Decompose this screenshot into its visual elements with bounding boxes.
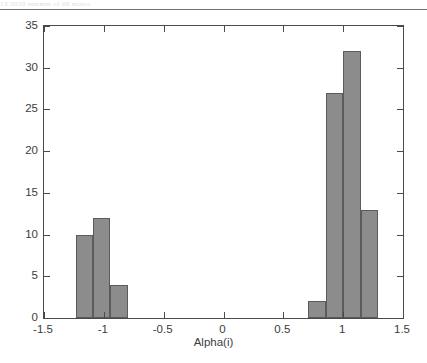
x-axis-tick (224, 312, 225, 318)
x-axis-tick (343, 312, 344, 318)
plot-area (43, 25, 404, 319)
x-axis-tick (403, 312, 404, 318)
y-axis-tick-label: 20 (10, 144, 38, 156)
y-axis-tick (44, 276, 50, 277)
y-axis-tick-right (397, 151, 403, 152)
y-axis-tick-right (397, 109, 403, 110)
y-axis-tick (44, 109, 50, 110)
y-axis-tick-right (397, 276, 403, 277)
bars-layer (44, 26, 403, 318)
x-axis-tick (283, 312, 284, 318)
y-axis-tick-label: 0 (10, 311, 38, 323)
histogram-bar (93, 218, 110, 318)
x-axis-tick-label: 0 (201, 323, 245, 335)
histogram-figure: 13 2020 mmmm of 08 minor 05101520253035-… (0, 0, 427, 363)
y-axis-tick-right (397, 68, 403, 69)
y-axis-tick-label: 15 (10, 186, 38, 198)
y-axis-tick-label: 5 (10, 269, 38, 281)
x-axis-tick-top (104, 26, 105, 32)
page-top-rule (0, 9, 427, 10)
histogram-bar (326, 93, 343, 318)
y-axis-tick (44, 318, 50, 319)
y-axis-tick (44, 193, 50, 194)
x-axis-title: Alpha(i) (0, 336, 427, 348)
x-axis-tick (104, 312, 105, 318)
histogram-bar (308, 301, 325, 318)
x-axis-tick-label: -1 (81, 323, 125, 335)
x-axis-tick-label: -1.5 (21, 323, 65, 335)
x-axis-tick-label: -0.5 (141, 323, 185, 335)
y-axis-tick-right (397, 193, 403, 194)
y-axis-tick-label: 30 (10, 61, 38, 73)
x-axis-tick-label: 1.5 (380, 323, 424, 335)
x-axis-tick-top (343, 26, 344, 32)
x-axis-tick-top (44, 26, 45, 32)
y-axis-tick (44, 235, 50, 236)
x-axis-tick (44, 312, 45, 318)
y-axis-tick-label: 10 (10, 228, 38, 240)
x-axis-tick-top (403, 26, 404, 32)
histogram-bar (110, 285, 127, 318)
y-axis-tick (44, 151, 50, 152)
y-axis-tick-label: 35 (10, 19, 38, 31)
x-axis-tick-top (283, 26, 284, 32)
histogram-bar (76, 235, 93, 318)
histogram-bar (361, 210, 378, 318)
x-axis-tick-label: 1 (320, 323, 364, 335)
y-axis-tick-label: 25 (10, 102, 38, 114)
y-axis-tick-right (397, 318, 403, 319)
x-axis-tick-label: 0.5 (260, 323, 304, 335)
y-axis-tick-right (397, 235, 403, 236)
x-axis-tick (164, 312, 165, 318)
histogram-bar (343, 51, 360, 318)
y-axis-tick (44, 68, 50, 69)
page-top-artifact-text: 13 2020 mmmm of 08 minor (0, 0, 427, 9)
x-axis-tick-top (224, 26, 225, 32)
x-axis-tick-top (164, 26, 165, 32)
